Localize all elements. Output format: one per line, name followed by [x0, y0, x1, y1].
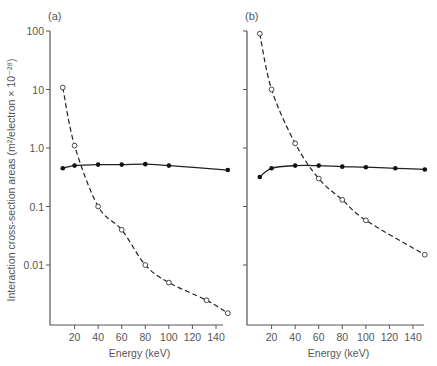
x-axis-label: Energy (keV) [308, 347, 369, 359]
dashed-curve [63, 88, 228, 314]
x-tick-label: 140 [207, 331, 225, 343]
y-tick-label: 0.01 [24, 259, 45, 271]
filled-data-point [60, 166, 65, 171]
open-data-point [340, 197, 345, 202]
x-tick-label: 120 [381, 331, 399, 343]
filled-data-point [340, 164, 345, 169]
x-tick-label: 40 [92, 331, 104, 343]
panel-label: (b) [245, 10, 258, 22]
filled-data-point [316, 163, 321, 168]
x-tick-label: 40 [289, 331, 301, 343]
y-tick-label: 100 [26, 25, 44, 37]
x-tick-label: 100 [160, 331, 178, 343]
open-data-point [293, 141, 298, 146]
axes-frame [50, 31, 223, 325]
open-data-point [72, 143, 77, 148]
open-data-point [422, 252, 427, 257]
panel-a: (a)100101.00.10.0120406080100120140Energ… [24, 10, 231, 359]
filled-data-point [167, 163, 172, 168]
filled-data-point [119, 162, 124, 167]
filled-data-point [393, 166, 398, 171]
filled-data-point [293, 163, 298, 168]
y-tick-label: 10 [32, 84, 44, 96]
filled-data-point [269, 166, 274, 171]
filled-data-point [364, 165, 369, 170]
panel-b: (b)20406080100120140Energy (keV) [243, 10, 427, 359]
x-tick-label: 20 [69, 331, 81, 343]
x-tick-label: 140 [404, 331, 422, 343]
x-tick-label: 120 [184, 331, 202, 343]
y-tick-label: 1.0 [29, 142, 44, 154]
x-tick-label: 60 [313, 331, 325, 343]
filled-data-point [143, 162, 148, 167]
figure: Interaction cross-section areas (m²/elec… [0, 0, 437, 366]
filled-data-point [72, 163, 77, 168]
open-data-point [363, 218, 368, 223]
axes-frame [247, 31, 424, 325]
open-data-point [60, 85, 65, 90]
dashed-curve [260, 34, 425, 255]
x-axis-label: Energy (keV) [109, 347, 170, 359]
panel-label: (a) [48, 10, 61, 22]
filled-data-point [225, 168, 230, 173]
x-tick-label: 20 [266, 331, 278, 343]
y-axis-label-container: Interaction cross-section areas (m²/elec… [2, 40, 20, 320]
open-data-point [269, 87, 274, 92]
open-data-point [143, 263, 148, 268]
x-tick-label: 60 [116, 331, 128, 343]
open-data-point [119, 227, 124, 232]
y-tick-label: 0.1 [29, 201, 44, 213]
x-tick-label: 80 [139, 331, 151, 343]
open-data-point [225, 311, 230, 316]
open-data-point [96, 204, 101, 209]
open-data-point [316, 176, 321, 181]
filled-data-point [257, 175, 262, 180]
x-tick-label: 100 [357, 331, 375, 343]
open-data-point [166, 280, 171, 285]
y-axis-label: Interaction cross-section areas (m²/elec… [5, 59, 17, 302]
open-data-point [204, 298, 209, 303]
x-tick-label: 80 [336, 331, 348, 343]
chart-canvas: (a)100101.00.10.0120406080100120140Energ… [0, 0, 437, 366]
filled-data-point [96, 162, 101, 167]
open-data-point [257, 31, 262, 36]
filled-data-point [422, 167, 427, 172]
